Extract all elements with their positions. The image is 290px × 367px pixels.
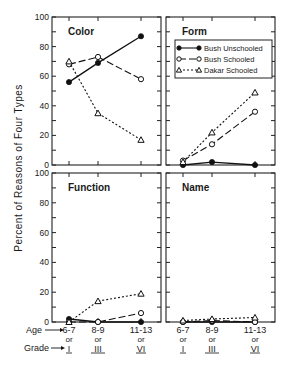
y-axis-label: Percent of Reasons of Four Types bbox=[13, 84, 24, 252]
open-circle-marker bbox=[209, 142, 214, 147]
panel-name: Name bbox=[166, 173, 275, 325]
arrow-head-icon bbox=[61, 346, 65, 350]
open-triangle-marker bbox=[138, 291, 144, 297]
y-tick-label: 60 bbox=[40, 228, 50, 238]
open-triangle-marker bbox=[252, 89, 258, 95]
x-age-label: 6-7 bbox=[176, 325, 189, 335]
panel-title: Function bbox=[68, 182, 110, 193]
x-age-label: 8-9 bbox=[205, 325, 218, 335]
y-tick-label: 0 bbox=[44, 317, 49, 327]
y-tick-label: 40 bbox=[40, 257, 50, 267]
y-tick-label: 20 bbox=[40, 287, 50, 297]
x-axis-labels: 6-7orI8-9orIII11-13orVI6-7orI8-9orIII11-… bbox=[24, 325, 266, 354]
age-prefix-label: Age bbox=[26, 325, 42, 335]
series-bush-schooled bbox=[180, 109, 257, 163]
x-or-label: or bbox=[179, 335, 186, 344]
open-circle-marker bbox=[252, 109, 257, 114]
chart-panels: 020406080100ColorFormBush UnschooledBush… bbox=[35, 12, 275, 327]
x-or-label: or bbox=[251, 335, 258, 344]
series-dakar-schooled bbox=[66, 58, 144, 142]
open-triangle-marker bbox=[66, 58, 72, 64]
panel-frame bbox=[166, 17, 275, 165]
x-age-label: 11-13 bbox=[130, 325, 152, 335]
filled-circle-marker bbox=[138, 319, 143, 324]
legend-label: Dakar Schooled bbox=[204, 66, 257, 75]
legend-label: Bush Schooled bbox=[204, 55, 254, 64]
open-circle-marker bbox=[95, 54, 100, 59]
open-circle-marker bbox=[138, 77, 143, 82]
panel-form: FormBush UnschooledBush SchooledDakar Sc… bbox=[166, 17, 275, 168]
filled-circle-marker bbox=[209, 159, 214, 164]
panel-color: 020406080100Color bbox=[35, 12, 161, 170]
x-grade-label: I bbox=[68, 344, 71, 354]
open-circle-marker bbox=[197, 57, 201, 61]
filled-circle-marker bbox=[177, 46, 181, 50]
filled-circle-marker bbox=[197, 46, 201, 50]
y-tick-label: 80 bbox=[40, 198, 50, 208]
x-grade-label: III bbox=[208, 344, 216, 354]
series-bush-unschooled bbox=[66, 34, 143, 85]
filled-circle-marker bbox=[66, 80, 71, 85]
x-age-label: 8-9 bbox=[91, 325, 104, 335]
y-tick-label: 20 bbox=[40, 130, 50, 140]
grade-prefix-label: Grade bbox=[24, 343, 49, 353]
open-circle-marker bbox=[138, 310, 143, 315]
legend-label: Bush Unschooled bbox=[204, 44, 263, 53]
panel-title: Color bbox=[68, 26, 94, 37]
filled-circle-marker bbox=[252, 162, 257, 167]
x-or-label: or bbox=[137, 335, 144, 344]
open-triangle-marker bbox=[138, 137, 144, 143]
open-circle-marker bbox=[177, 57, 181, 61]
chart-figure: 020406080100ColorFormBush UnschooledBush… bbox=[0, 0, 290, 367]
y-tick-label: 100 bbox=[35, 168, 49, 178]
x-age-label: 6-7 bbox=[62, 325, 75, 335]
y-tick-label: 40 bbox=[40, 101, 50, 111]
filled-circle-marker bbox=[95, 60, 100, 65]
series-dakar-schooled bbox=[180, 89, 258, 164]
x-grade-label: III bbox=[94, 344, 102, 354]
x-grade-label: VI bbox=[137, 344, 146, 354]
panel-title: Form bbox=[182, 26, 207, 37]
open-triangle-marker bbox=[95, 110, 101, 116]
y-tick-label: 60 bbox=[40, 71, 50, 81]
panel-function: 020406080100Function bbox=[35, 168, 161, 327]
panel-title: Name bbox=[182, 182, 210, 193]
series-bush-unschooled bbox=[180, 159, 257, 167]
open-circle-marker bbox=[95, 319, 100, 324]
x-or-label: or bbox=[94, 335, 101, 344]
x-age-label: 11-13 bbox=[244, 325, 266, 335]
y-tick-label: 80 bbox=[40, 42, 50, 52]
filled-circle-marker bbox=[138, 34, 143, 39]
x-grade-label: I bbox=[182, 344, 185, 354]
legend: Bush UnschooledBush SchooledDakar School… bbox=[175, 40, 272, 78]
x-or-label: or bbox=[65, 335, 72, 344]
y-tick-label: 100 bbox=[35, 12, 49, 22]
x-grade-label: VI bbox=[251, 344, 260, 354]
x-or-label: or bbox=[208, 335, 215, 344]
panel-frame bbox=[166, 173, 275, 322]
